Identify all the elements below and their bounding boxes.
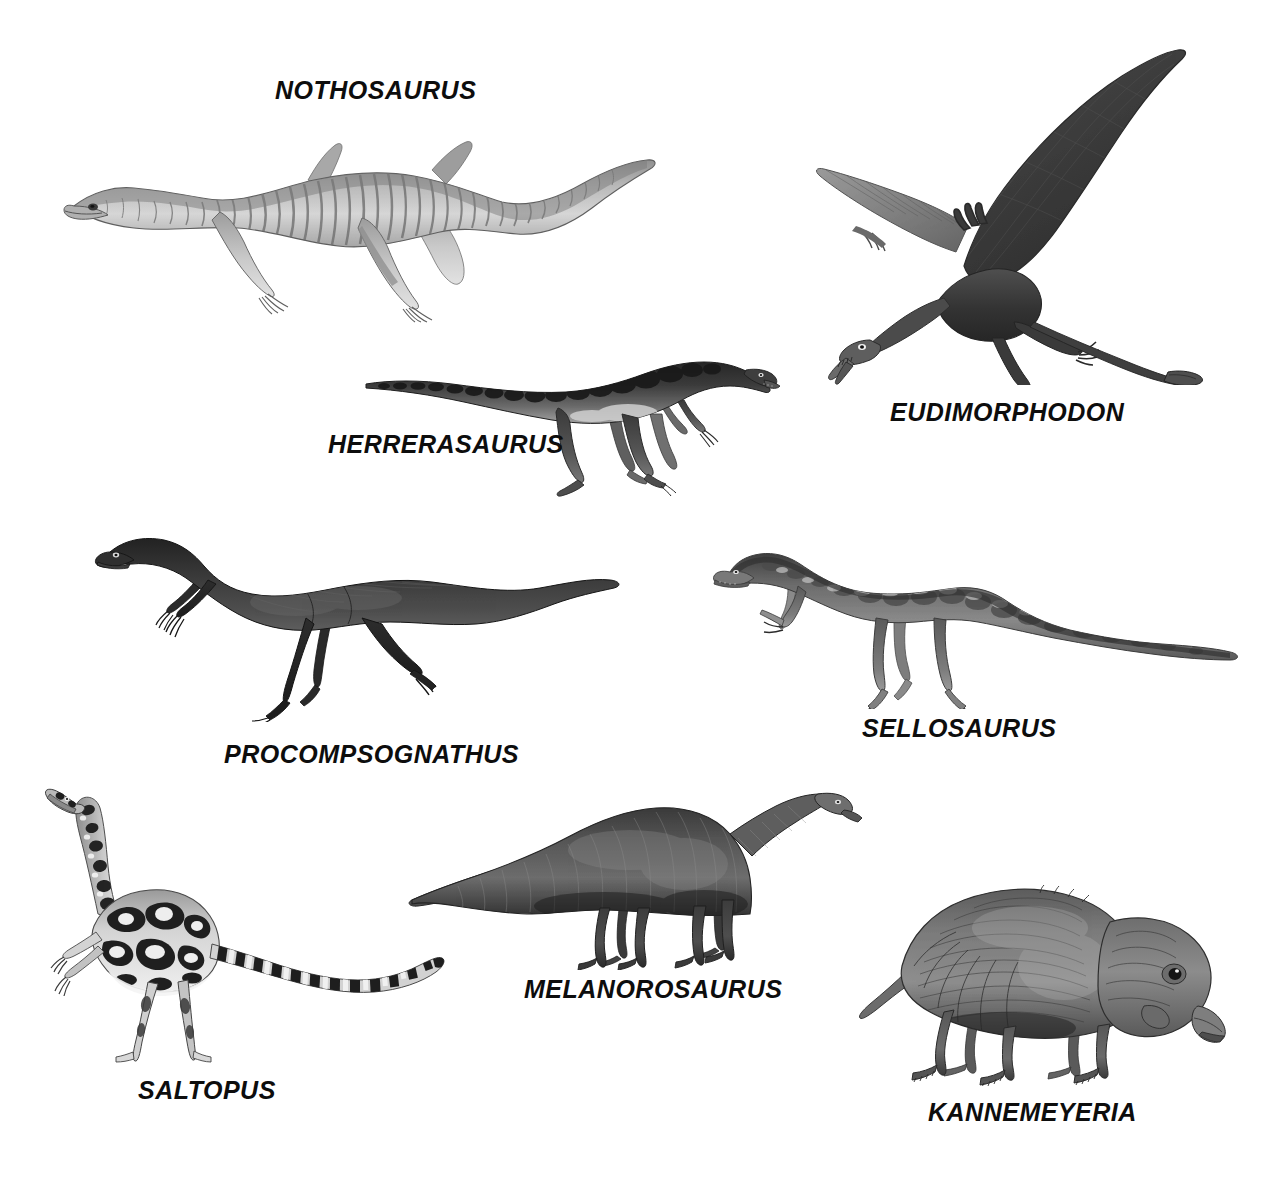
saltopus-illustration — [42, 774, 462, 1064]
caption-kannemeyeria: KANNEMEYERIA — [928, 1100, 1137, 1125]
nothosaurus-illustration — [62, 118, 662, 323]
caption-nothosaurus: NOTHOSAURUS — [275, 78, 476, 103]
figure-kannemeyeria — [854, 856, 1254, 1086]
procompsognathus-illustration — [90, 522, 650, 722]
caption-melanorosaurus: MELANOROSAURUS — [524, 977, 782, 1002]
kannemeyeria-illustration — [854, 856, 1254, 1086]
illustration-plate: NOTHOSAURUS — [0, 0, 1262, 1186]
eudimorphodon-illustration — [816, 40, 1246, 385]
figure-eudimorphodon — [816, 40, 1246, 385]
figure-saltopus — [42, 774, 462, 1064]
caption-procompsognathus: PROCOMPSOGNATHUS — [224, 742, 519, 767]
caption-saltopus: SALTOPUS — [138, 1078, 276, 1103]
figure-melanorosaurus — [404, 792, 864, 970]
figure-sellosaurus — [712, 534, 1252, 709]
figure-procompsognathus — [90, 522, 650, 722]
caption-eudimorphodon: EUDIMORPHODON — [890, 400, 1124, 425]
sellosaurus-illustration — [712, 534, 1252, 709]
caption-herrerasaurus: HERRERASAURUS — [328, 432, 564, 457]
caption-sellosaurus: SELLOSAURUS — [862, 716, 1056, 741]
figure-nothosaurus — [62, 118, 662, 323]
melanorosaurus-illustration — [404, 792, 864, 970]
